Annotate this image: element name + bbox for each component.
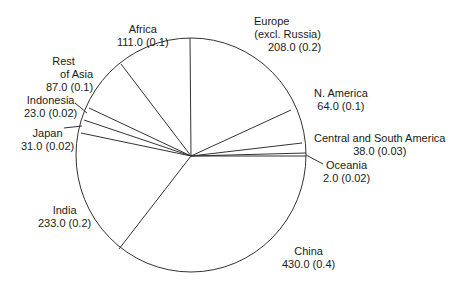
label-csamerica-name: Central and South America: [314, 132, 445, 145]
label-india-value: 233.0 (0.2): [38, 217, 91, 230]
label-namerica: N. America 64.0 (0.1): [314, 87, 368, 113]
label-europe-name2: (excl. Russia): [254, 28, 321, 41]
label-europe-name: Europe: [254, 15, 321, 28]
label-japan: Japan 31.0 (0.02): [21, 127, 74, 153]
label-europe: Europe (excl. Russia) 208.0 (0.2): [254, 15, 321, 54]
label-africa-value: 111.0 (0.1): [117, 36, 169, 49]
label-restasia-name2: of Asia: [46, 68, 93, 81]
label-japan-name: Japan: [21, 127, 74, 140]
label-oceania-name: Oceania: [323, 159, 370, 172]
label-restasia: Rest of Asia 87.0 (0.1): [46, 55, 93, 94]
label-japan-value: 31.0 (0.02): [21, 140, 74, 153]
label-csamerica: Central and South America 38.0 (0.03): [314, 132, 445, 158]
label-africa: Africa 111.0 (0.1): [117, 23, 169, 49]
label-namerica-name: N. America: [314, 87, 368, 100]
label-indonesia: Indonesia 23.0 (0.02): [24, 94, 77, 120]
label-china-name: China: [282, 245, 335, 258]
label-indonesia-name: Indonesia: [24, 94, 77, 107]
label-africa-name: Africa: [117, 23, 169, 36]
label-oceania: Oceania 2.0 (0.02): [323, 159, 370, 185]
label-oceania-value: 2.0 (0.02): [323, 172, 370, 185]
label-namerica-value: 64.0 (0.1): [314, 100, 368, 113]
label-indonesia-value: 23.0 (0.02): [24, 107, 77, 120]
label-europe-value: 208.0 (0.2): [254, 41, 321, 54]
label-india: India 233.0 (0.2): [38, 204, 91, 230]
label-china-value: 430.0 (0.4): [282, 258, 335, 271]
label-india-name: India: [38, 204, 91, 217]
label-csamerica-value: 38.0 (0.03): [314, 145, 445, 158]
label-china: China 430.0 (0.4): [282, 245, 335, 271]
label-restasia-name: Rest: [46, 55, 93, 68]
label-restasia-value: 87.0 (0.1): [46, 81, 93, 94]
